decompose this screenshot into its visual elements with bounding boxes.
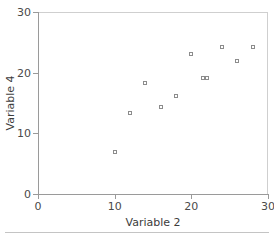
x-tick bbox=[268, 194, 269, 199]
x-tick bbox=[191, 194, 192, 199]
y-tick bbox=[33, 194, 38, 195]
data-point bbox=[235, 59, 239, 63]
x-tick-label: 20 bbox=[184, 200, 198, 213]
data-point bbox=[189, 52, 193, 56]
y-axis-title: Variable 4 bbox=[4, 75, 17, 130]
plot-frame bbox=[38, 12, 268, 194]
data-point bbox=[220, 45, 224, 49]
x-tick bbox=[115, 194, 116, 199]
data-point bbox=[174, 94, 178, 98]
x-axis-line bbox=[38, 194, 268, 195]
x-tick-label: 10 bbox=[108, 200, 122, 213]
y-tick bbox=[33, 73, 38, 74]
data-point bbox=[159, 105, 163, 109]
data-point bbox=[113, 150, 117, 154]
y-axis-line bbox=[38, 12, 39, 194]
data-point bbox=[128, 111, 132, 115]
x-tick bbox=[38, 194, 39, 199]
y-tick-label: 10 bbox=[17, 127, 31, 140]
data-point bbox=[143, 81, 147, 85]
x-axis-title: Variable 2 bbox=[125, 216, 180, 229]
y-tick-label: 0 bbox=[24, 188, 31, 201]
footer-rule bbox=[5, 232, 269, 233]
y-tick bbox=[33, 133, 38, 134]
y-tick-label: 20 bbox=[17, 66, 31, 79]
y-tick-label: 30 bbox=[17, 6, 31, 19]
data-point bbox=[251, 45, 255, 49]
y-tick bbox=[33, 12, 38, 13]
x-tick-label: 30 bbox=[261, 200, 274, 213]
data-point bbox=[205, 76, 209, 80]
x-tick-label: 0 bbox=[35, 200, 42, 213]
scatter-chart: 0102030 0102030 Variable 2 Variable 4 bbox=[0, 0, 274, 235]
